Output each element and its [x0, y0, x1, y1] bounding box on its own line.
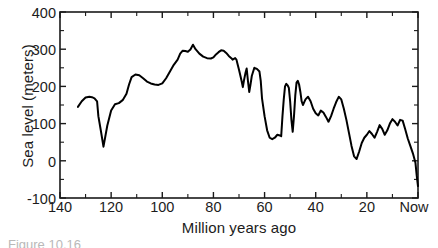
- figure-caption: Figure 10.16: [8, 238, 188, 248]
- sea-level-line: [78, 45, 418, 186]
- figure-container: Sea level (meters) 400 300 200 100 0 -10…: [0, 0, 438, 248]
- chart-plot-area: [0, 0, 438, 248]
